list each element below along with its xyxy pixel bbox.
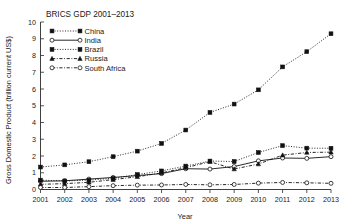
data-point-marker [39,165,43,169]
data-point-marker [329,32,333,36]
legend-marker-end [78,66,82,70]
data-point-marker [305,156,309,160]
legend-label: Brazil [85,45,104,54]
data-point-marker [39,185,43,189]
y-tick-label: 10 [28,18,36,27]
data-point-marker [256,88,260,92]
x-tick-label: 2008 [202,195,218,204]
y-tick-label: 0 [32,185,36,194]
data-point-marker [160,183,164,187]
data-point-marker [232,102,236,106]
legend-marker-start [50,29,54,33]
x-tick-label: 2012 [299,195,315,204]
legend-label: India [85,36,102,45]
series-line [41,146,332,181]
y-tick-label: 6 [32,85,36,94]
y-tick-label: 4 [32,118,36,127]
x-tick-label: 2005 [129,195,145,204]
legend-marker-start [50,66,54,70]
data-point-marker [208,167,212,171]
legend-label: South Africa [85,64,127,73]
x-tick-label: 2007 [178,195,194,204]
data-point-marker [256,151,260,155]
x-tick-label: 2003 [81,195,97,204]
data-point-marker [111,155,115,159]
legend-item-brazil[interactable]: Brazil [50,45,104,54]
series-china [39,32,333,169]
x-axis: 2001200220032004200520062007200820092010… [33,190,339,205]
x-tick-label: 2011 [275,195,290,204]
data-point-marker [87,185,91,189]
data-point-marker [63,163,67,167]
legend-item-russia[interactable]: Russia [50,54,109,63]
legend-marker-end [78,38,82,42]
x-tick-label: 2010 [250,195,266,204]
data-point-marker [232,160,236,164]
chart-legend: ChinaIndiaBrazilRussiaSouth Africa [50,27,126,73]
data-point-marker [329,181,333,185]
data-point-marker [87,160,91,164]
data-point-marker [111,184,115,188]
y-tick-label: 8 [32,51,36,60]
x-tick-label: 2002 [57,195,73,204]
y-tick-label: 3 [32,135,36,144]
data-point-marker [135,183,139,187]
x-tick-label: 2006 [154,195,170,204]
data-point-marker [305,146,309,150]
data-series-group [38,32,333,190]
data-point-marker [281,144,285,148]
legend-marker-end [78,56,82,60]
chart-title: BRICS GDP 2001–2013 [46,10,135,19]
data-point-marker [232,182,236,186]
data-point-marker [305,181,309,185]
legend-marker-end [78,48,82,52]
x-tick-label: 2004 [105,195,121,204]
x-axis-title: Year [178,212,193,221]
data-point-marker [208,183,212,187]
legend-marker-end [78,29,82,33]
y-tick-label: 1 [32,168,36,177]
data-point-marker [208,111,212,115]
data-point-marker [39,178,43,182]
data-point-marker [256,181,260,185]
data-point-marker [63,185,67,189]
x-tick-label: 2001 [33,195,49,204]
brics-gdp-line-chart: BRICS GDP 2001–2013 Gross Domestic Produ… [0,0,339,224]
series-south-africa [39,180,334,189]
x-tick-label: 2009 [226,195,242,204]
data-point-marker [329,155,333,159]
y-tick-label: 2 [32,152,36,161]
data-point-marker [281,180,285,184]
data-point-marker [305,50,309,54]
legend-item-china[interactable]: China [50,27,105,36]
chart-figure: BRICS GDP 2001–2013 Gross Domestic Produ… [0,0,339,224]
data-point-marker [160,142,164,146]
x-tick-label: 2013 [323,195,339,204]
legend-item-india[interactable]: India [50,36,102,45]
legend-item-south-africa[interactable]: South Africa [50,64,126,73]
y-axis-title: Gross Domestic Product (trillion current… [4,36,13,184]
data-point-marker [135,149,139,153]
data-point-marker [184,182,188,186]
y-tick-label: 7 [32,68,36,77]
y-tick-label: 5 [32,101,36,110]
legend-label: Russia [85,54,109,63]
legend-marker-start [50,48,54,52]
data-point-marker [184,128,188,132]
series-brazil [39,144,333,183]
legend-marker-start [50,38,54,42]
legend-label: China [85,27,106,36]
y-tick-label: 9 [32,34,36,43]
data-point-marker [281,65,285,69]
x-axis-ticks: 2001200220032004200520062007200820092010… [33,190,339,205]
